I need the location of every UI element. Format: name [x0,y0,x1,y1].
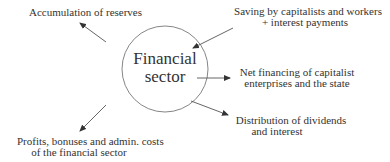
arrow-from-savings [193,28,233,48]
center-node-line2: sector [120,68,210,86]
arrow-to-dividends [191,101,228,115]
label-net-financing: Net financing of capitalist enterprises … [237,67,357,89]
label-saving: Saving by capitalists and workers + inte… [233,6,383,28]
center-node-line1: Financial [120,50,210,68]
center-node-label: Financial sector [120,50,210,86]
label-profits-bonuses: Profits, bonuses and admin. costs of the… [17,136,159,158]
label-accumulation-of-reserves: Accumulation of reserves [29,7,142,18]
arrow-to-profits [80,105,106,131]
label-line: Accumulation of reserves [29,6,142,18]
label-line: enterprises and the state [237,78,357,89]
financial-sector-diagram: Financial sector Accumulation of reserve… [0,0,390,162]
label-line: + interest payments [227,17,383,28]
label-distribution-dividends: Distribution of dividends and interest [235,115,347,137]
arrow-to-reserves [80,23,106,42]
label-line: of the financial sector [0,147,159,158]
label-line: and interest [207,126,347,137]
